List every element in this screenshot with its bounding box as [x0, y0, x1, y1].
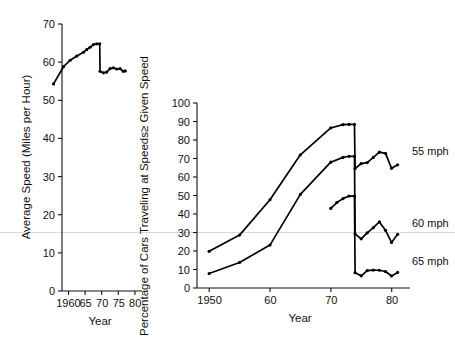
data-point: [69, 59, 72, 62]
left-series-average-speed-line: [54, 44, 126, 84]
data-point: [396, 163, 399, 166]
data-point: [208, 250, 211, 253]
right-y-ticks: [193, 103, 197, 288]
data-point: [378, 269, 381, 272]
data-point: [384, 229, 387, 232]
data-point: [390, 274, 393, 277]
data-point: [335, 201, 338, 204]
left-ytick-50: 50: [43, 94, 55, 106]
data-point: [384, 152, 387, 155]
right-ytick-30: 30: [178, 227, 190, 239]
right-ytick-20: 20: [178, 245, 190, 257]
right-series-60mph-markers: [208, 155, 400, 275]
data-point: [353, 194, 356, 197]
data-point: [396, 233, 399, 236]
data-point: [341, 123, 344, 126]
right-series-group: [208, 123, 400, 278]
right-series-55mph-markers: [208, 123, 400, 253]
data-point: [115, 67, 118, 70]
data-point: [112, 66, 115, 69]
left-ytick-60: 60: [43, 56, 55, 68]
left-ytick-10: 10: [43, 247, 55, 259]
series-label-60mph: 60 mph: [412, 217, 449, 229]
right-xtick-60: 60: [264, 294, 276, 306]
data-point: [62, 65, 65, 68]
right-xtick-80: 80: [386, 294, 398, 306]
right-ytick-40: 40: [178, 208, 190, 220]
left-ytick-30: 30: [43, 171, 55, 183]
left-y-ticks: [58, 24, 62, 291]
data-point: [329, 161, 332, 164]
data-point: [378, 151, 381, 154]
data-point: [208, 272, 211, 275]
right-ytick-80: 80: [178, 134, 190, 146]
data-point: [52, 82, 55, 85]
data-point: [118, 67, 121, 70]
data-point: [378, 220, 381, 223]
series-label-55mph: 55 mph: [412, 145, 449, 157]
data-point: [102, 71, 105, 74]
data-point: [396, 271, 399, 274]
data-point: [299, 153, 302, 156]
right-xtick-1950: 1950: [197, 294, 221, 306]
left-ytick-0: 0: [49, 285, 55, 297]
data-point: [347, 155, 350, 158]
right-x-ticks: [209, 288, 392, 292]
data-point: [353, 155, 356, 158]
data-point: [390, 241, 393, 244]
data-point: [360, 237, 363, 240]
data-point: [75, 54, 78, 57]
data-point: [341, 197, 344, 200]
left-xtick-75: 75: [113, 297, 125, 309]
two-panel-line-chart: 70 60 50 40 30 20 10 0 1960 65 70 75 80: [0, 0, 455, 344]
data-point: [238, 261, 241, 264]
right-ytick-100: 100: [172, 97, 190, 109]
data-point: [124, 69, 127, 72]
series-label-65mph: 65 mph: [412, 255, 449, 267]
data-point: [92, 43, 95, 46]
data-point: [238, 233, 241, 236]
data-point: [268, 198, 271, 201]
data-point: [341, 156, 344, 159]
data-point: [108, 67, 111, 70]
right-xtick-70: 70: [325, 294, 337, 306]
data-point: [347, 123, 350, 126]
left-x-ticks: [69, 291, 135, 295]
right-ytick-70: 70: [178, 153, 190, 165]
left-x-axis-title: Year: [88, 315, 111, 327]
data-point: [390, 167, 393, 170]
figure-canvas: 70 60 50 40 30 20 10 0 1960 65 70 75 80: [0, 0, 455, 344]
data-point: [360, 274, 363, 277]
data-point: [105, 70, 108, 73]
data-point: [366, 269, 369, 272]
data-point: [372, 226, 375, 229]
data-point: [268, 243, 271, 246]
data-point: [353, 271, 356, 274]
data-point: [366, 231, 369, 234]
data-point: [82, 51, 85, 54]
right-x-axis-title: Year: [288, 312, 311, 324]
data-point: [98, 70, 101, 73]
right-ytick-10: 10: [178, 264, 190, 276]
data-point: [360, 162, 363, 165]
data-point: [347, 194, 350, 197]
left-panel: 70 60 50 40 30 20 10 0 1960 65 70 75 80: [20, 18, 142, 327]
data-point: [372, 156, 375, 159]
data-point: [329, 126, 332, 129]
data-point: [88, 46, 91, 49]
right-ytick-0: 0: [184, 282, 190, 294]
left-series-group: [52, 42, 127, 85]
left-ytick-70: 70: [43, 18, 55, 30]
left-ytick-40: 40: [43, 132, 55, 144]
data-point: [366, 161, 369, 164]
left-xtick-1960: 1960: [56, 297, 80, 309]
left-xtick-65: 65: [79, 297, 91, 309]
right-ytick-60: 60: [178, 171, 190, 183]
data-point: [372, 268, 375, 271]
left-ytick-20: 20: [43, 209, 55, 221]
right-ytick-90: 90: [178, 116, 190, 128]
data-point: [95, 42, 98, 45]
left-xtick-70: 70: [96, 297, 108, 309]
right-y-axis-title: Percentage of Cars Traveling at Speeds≥ …: [138, 56, 150, 336]
data-point: [85, 48, 88, 51]
